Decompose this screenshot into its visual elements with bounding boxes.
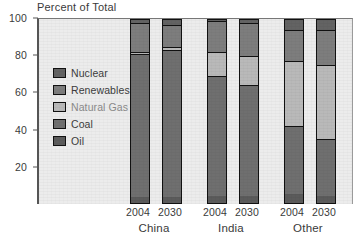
y-tick-label: 60 xyxy=(15,86,27,98)
stacked-bar[interactable] xyxy=(130,18,150,204)
x-axis: 2004 2030 2004 2030 2004 2030 China Indi… xyxy=(37,204,353,251)
bar-segment-coal[interactable] xyxy=(240,85,258,195)
x-tick-label: 2004 xyxy=(280,206,304,218)
bar-segment-oil[interactable] xyxy=(131,197,149,203)
bar-segment-nuclear[interactable] xyxy=(285,19,303,30)
chart-title: Percent of Total xyxy=(37,1,116,13)
bar-segment-coal[interactable] xyxy=(131,54,149,198)
bar-segment-natural-gas[interactable] xyxy=(208,52,226,76)
legend-label: Coal xyxy=(71,118,93,130)
bar-segment-renewables[interactable] xyxy=(240,23,258,56)
legend-item-oil: Oil xyxy=(53,135,130,146)
bar-segment-coal[interactable] xyxy=(285,126,303,194)
bar-segment-renewables[interactable] xyxy=(208,21,226,52)
legend-swatch-icon xyxy=(53,136,66,146)
legend-item-coal: Coal xyxy=(53,118,130,129)
bar-segment-oil[interactable] xyxy=(208,196,226,203)
x-group-label-other: Other xyxy=(293,222,323,234)
legend-swatch-icon xyxy=(53,85,66,95)
bar-segment-coal[interactable] xyxy=(208,76,226,196)
bar-segment-oil[interactable] xyxy=(163,197,181,203)
x-tick-label: 2030 xyxy=(312,206,336,218)
x-tick-label: 2004 xyxy=(126,206,150,218)
legend-item-renewables: Renewables xyxy=(53,84,130,95)
bar-segment-renewables[interactable] xyxy=(317,30,335,65)
x-tick-label: 2030 xyxy=(158,206,182,218)
bar-segment-coal[interactable] xyxy=(163,50,181,197)
stacked-bar[interactable] xyxy=(162,18,182,204)
bar-segment-oil[interactable] xyxy=(240,196,258,203)
legend-label: Nuclear xyxy=(71,67,108,79)
legend-swatch-icon xyxy=(53,68,66,78)
stacked-bar[interactable] xyxy=(316,18,336,204)
legend-swatch-icon xyxy=(53,102,66,112)
bar-segment-natural-gas[interactable] xyxy=(285,61,303,125)
legend-label: Oil xyxy=(71,135,84,147)
bar-segment-nuclear[interactable] xyxy=(317,19,335,30)
bar-segment-natural-gas[interactable] xyxy=(240,56,258,85)
bar-segment-renewables[interactable] xyxy=(131,23,149,52)
x-tick-label: 2004 xyxy=(203,206,227,218)
y-tick-label: 100 xyxy=(9,12,27,24)
legend-item-nuclear: Nuclear xyxy=(53,67,130,78)
y-tick-label: 80 xyxy=(15,49,27,61)
stacked-bar[interactable] xyxy=(239,18,259,204)
stacked-bar[interactable] xyxy=(284,18,304,204)
bar-segment-renewables[interactable] xyxy=(285,30,303,61)
y-tick-label: 20 xyxy=(15,161,27,173)
y-axis: 100 80 60 40 20 xyxy=(0,18,33,204)
legend-label: Natural Gas xyxy=(71,101,128,113)
bar-segment-oil[interactable] xyxy=(285,194,303,203)
bar-segment-natural-gas[interactable] xyxy=(317,65,335,139)
stacked-bar[interactable] xyxy=(207,18,227,204)
x-group-label-china: China xyxy=(138,222,169,234)
plot-area: Nuclear Renewables Natural Gas Coal Oil xyxy=(37,18,353,204)
chart-root: Percent of Total 100 80 60 40 20 Nuclear xyxy=(0,0,357,251)
chart-legend: Nuclear Renewables Natural Gas Coal Oil xyxy=(53,67,130,146)
legend-swatch-icon xyxy=(53,119,66,129)
x-tick-label: 2030 xyxy=(235,206,259,218)
bar-segment-coal[interactable] xyxy=(317,139,335,196)
bar-segment-oil[interactable] xyxy=(317,196,335,203)
y-tick-label: 40 xyxy=(15,124,27,136)
x-group-label-india: India xyxy=(218,222,244,234)
bar-segment-renewables[interactable] xyxy=(163,25,181,47)
legend-label: Renewables xyxy=(71,84,130,96)
legend-item-natural-gas: Natural Gas xyxy=(53,101,130,112)
